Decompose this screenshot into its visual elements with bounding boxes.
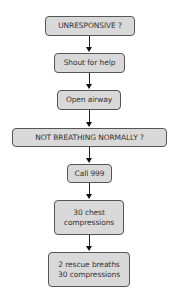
node-call-999: Call 999 xyxy=(67,164,112,183)
node-label: NOT BREATHING NORMALLY ? xyxy=(35,133,144,143)
node-30-chest-compressions: 30 chest compressions xyxy=(54,200,124,235)
node-not-breathing-normally: NOT BREATHING NORMALLY ? xyxy=(12,128,167,147)
node-label: Call 999 xyxy=(75,169,105,179)
node-label-line-1: 2 rescue breaths xyxy=(58,260,119,270)
node-rescue-breaths-compressions: 2 rescue breaths 30 compressions xyxy=(48,252,130,287)
arrowhead-icon xyxy=(86,84,92,89)
arrowhead-icon xyxy=(86,158,92,163)
node-shout-for-help: Shout for help xyxy=(54,53,125,73)
arrowhead-icon xyxy=(86,194,92,199)
node-label: Shout for help xyxy=(64,58,116,68)
node-label: UNRESPONSIVE ? xyxy=(58,21,122,31)
arrowhead-icon xyxy=(86,246,92,251)
node-label: Open airway xyxy=(66,95,112,105)
node-label-line-2: 30 compressions xyxy=(58,270,120,280)
arrowhead-icon xyxy=(86,47,92,52)
node-unresponsive: UNRESPONSIVE ? xyxy=(45,16,135,36)
arrowhead-icon xyxy=(86,122,92,127)
node-open-airway: Open airway xyxy=(57,90,121,110)
node-label-line-2: compressions xyxy=(64,218,114,228)
node-label-line-1: 30 chest xyxy=(73,208,104,218)
